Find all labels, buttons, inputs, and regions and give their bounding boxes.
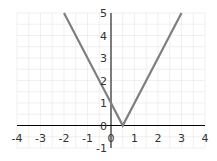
x-tick-label: -1	[82, 132, 93, 145]
y-tick-label: 5	[100, 7, 107, 20]
chart: -4-3-2-101234 -1012345	[0, 0, 217, 161]
y-tick-label: -1	[96, 142, 107, 155]
x-tick-label: -4	[12, 132, 23, 145]
x-tick-label: 4	[202, 132, 209, 145]
x-tick-label: 2	[155, 132, 162, 145]
y-tick-label: 1	[100, 97, 107, 110]
x-tick-labels: -4-3-2-101234	[12, 132, 209, 145]
y-tick-label: 4	[100, 30, 107, 43]
x-tick-label: -3	[35, 132, 46, 145]
y-tick-labels: -1012345	[96, 7, 107, 155]
y-tick-label: 0	[100, 120, 107, 133]
y-tick-label: 2	[100, 75, 107, 88]
y-tick-label: 3	[100, 52, 107, 65]
x-tick-label: -2	[59, 132, 70, 145]
x-tick-label: 0	[108, 132, 115, 145]
x-tick-label: 3	[178, 132, 185, 145]
x-tick-label: 1	[131, 132, 138, 145]
